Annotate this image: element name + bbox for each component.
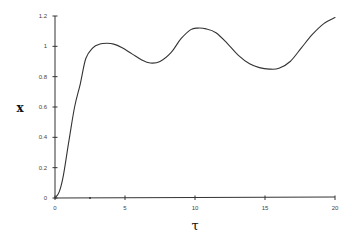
x-axis-title: τ bbox=[191, 218, 198, 233]
y-axis: 00.20.40.60.811.2 bbox=[39, 13, 58, 201]
y-axis-title: x bbox=[16, 101, 24, 115]
y-tick-label: 0.2 bbox=[39, 165, 48, 171]
x-minor-tick bbox=[89, 197, 91, 199]
x-tick-label: 5 bbox=[123, 205, 127, 211]
x-tick-label: 20 bbox=[332, 205, 339, 211]
y-tick-label: 0.6 bbox=[39, 104, 48, 110]
x-axis: 05101520 bbox=[53, 196, 339, 212]
y-tick-label: 0.8 bbox=[39, 74, 48, 80]
y-tick-label: 0 bbox=[44, 195, 48, 201]
y-tick-label: 0.4 bbox=[39, 134, 48, 140]
x-tick-label: 0 bbox=[53, 205, 57, 211]
y-tick-label: 1 bbox=[44, 43, 48, 49]
series-line bbox=[55, 18, 335, 199]
x-tick-label: 15 bbox=[262, 205, 269, 211]
x-tick-label: 10 bbox=[192, 205, 199, 211]
y-tick-label: 1.2 bbox=[39, 13, 48, 19]
line-chart: 00.20.40.60.811.2 05101520 x τ bbox=[0, 0, 352, 243]
